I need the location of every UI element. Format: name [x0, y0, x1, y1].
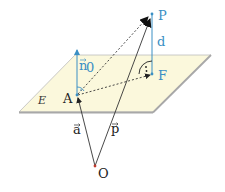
- plane-e: [19, 55, 211, 113]
- label-p: P: [158, 8, 167, 23]
- label-vector-a-base: a: [73, 122, 81, 137]
- label-normal-sub: 0: [86, 60, 94, 75]
- label-d: d: [157, 34, 165, 49]
- label-plane-e: E: [37, 94, 46, 107]
- angle-dot-a: [80, 89, 81, 90]
- label-a: A: [62, 91, 73, 106]
- point-a: [76, 94, 79, 97]
- point-o: [94, 165, 97, 168]
- label-vector-p: p: [111, 121, 119, 136]
- right-angle-dot-2: [146, 70, 148, 72]
- point-p: [151, 13, 154, 16]
- geometry-diagram: P d F A O E n 0 a p: [0, 0, 225, 192]
- point-f: [151, 73, 154, 76]
- label-f: F: [158, 68, 167, 83]
- label-normal: n 0: [79, 58, 94, 75]
- label-o: O: [98, 166, 109, 181]
- label-vector-a: a: [73, 122, 81, 137]
- right-angle-dot-1: [145, 66, 147, 68]
- label-vector-p-base: p: [111, 121, 119, 136]
